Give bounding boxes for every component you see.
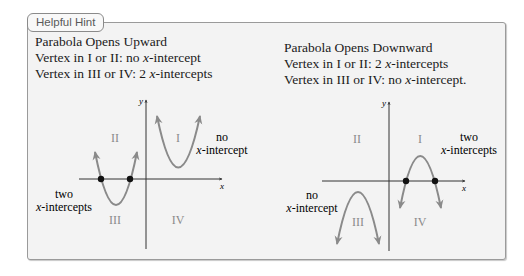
x-intercept-dot [403, 178, 409, 184]
label-two-intercepts-line2: x-intercepts [440, 143, 497, 157]
label-two-intercepts-line1: two [460, 130, 478, 144]
quadrant-label-IV: IV [172, 213, 185, 227]
quadrant-label-III: III [109, 213, 121, 227]
label-no-intercept-line2: x-intercept [285, 201, 338, 215]
quadrant-label-IV: IV [414, 215, 427, 229]
downward-graph: x y I II III IV two x-intercepts no x-in… [285, 98, 497, 251]
quadrant-label-II: II [353, 132, 361, 146]
upward-graph: x y I II III IV no x-intercept two x-int… [35, 96, 248, 249]
label-no-intercept-line1: no [306, 188, 318, 202]
parabola-graphs: x y I II III IV no x-intercept two x-int… [0, 0, 524, 276]
quadrant-label-II: II [111, 131, 119, 145]
y-axis-label: y [138, 96, 143, 106]
label-two-intercepts-line2: x-intercepts [35, 200, 92, 214]
x-axis-label: x [461, 183, 466, 193]
quadrant-label-I: I [418, 132, 422, 146]
y-axis-label: y [381, 98, 386, 108]
x-intercept-dot [432, 178, 438, 184]
x-intercept-dot [127, 176, 133, 182]
x-intercept-dot [98, 176, 104, 182]
quadrant-label-I: I [176, 131, 180, 145]
label-no-intercept-line1: no [216, 130, 228, 144]
quadrant-label-III: III [352, 215, 364, 229]
label-two-intercepts-line1: two [55, 187, 73, 201]
label-no-intercept-line2: x-intercept [195, 143, 248, 157]
x-axis-label: x [219, 181, 224, 191]
